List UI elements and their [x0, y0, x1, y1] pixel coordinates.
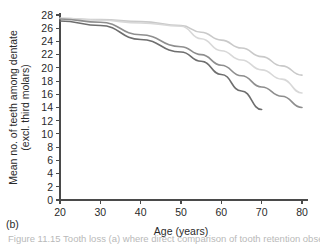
x-tick-label: 60	[215, 206, 227, 218]
y-tick-label: 4	[47, 167, 53, 179]
y-tick-label: 24	[41, 35, 53, 47]
y-tick-label: 6	[47, 154, 53, 166]
x-tick-label: 50	[175, 206, 187, 218]
y-axis-title-line-1: Mean no. of teeth among dentate	[7, 30, 19, 185]
y-tick-label: 2	[47, 181, 53, 193]
y-tick-label: 18	[41, 75, 53, 87]
y-tick-label: 12	[41, 115, 53, 127]
y-tick-label: 16	[41, 88, 53, 100]
y-axis-title-line-2: (excl. third molars)	[19, 64, 31, 150]
x-tick-label: 70	[256, 206, 268, 218]
y-tick-label: 8	[47, 141, 53, 153]
figure-caption: Figure 11.15 Tooth loss (a) where direct…	[8, 233, 320, 244]
x-tick-label: 80	[296, 206, 308, 218]
y-tick-label: 28	[41, 9, 53, 21]
x-tick-label: 20	[54, 206, 66, 218]
tooth-loss-line-chart: 024681012141618202224262820304050607080A…	[0, 0, 320, 250]
series-line-series-light	[60, 18, 302, 93]
figure-panel-b: 024681012141618202224262820304050607080A…	[0, 0, 320, 250]
series-line-series-medium	[60, 19, 302, 108]
y-tick-label: 10	[41, 128, 53, 140]
y-tick-label: 20	[41, 62, 53, 74]
x-tick-label: 40	[135, 206, 147, 218]
data-series-group	[60, 18, 302, 109]
y-tick-label: 0	[47, 194, 53, 206]
y-tick-label: 22	[41, 48, 53, 60]
series-line-series-dark	[60, 21, 262, 110]
y-tick-label: 14	[41, 101, 53, 113]
axes	[56, 13, 308, 204]
y-tick-label: 26	[41, 22, 53, 34]
x-tick-label: 30	[94, 206, 106, 218]
panel-label: (b)	[6, 218, 19, 230]
